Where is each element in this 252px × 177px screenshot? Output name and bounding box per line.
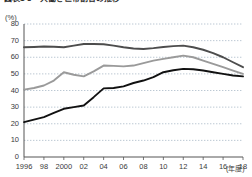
x-axis-tick-label: 1996 [13,162,35,171]
x-axis-tick-label: 10 [152,162,174,171]
y-axis-tick-label: 0 [3,152,19,161]
y-axis-tick-label: 40 [3,86,19,95]
y-axis-tick-label: 80 [3,19,19,28]
x-axis-tick-label: 98 [33,162,55,171]
y-axis-tick-label: 50 [3,69,19,78]
y-axis-tick-label: 10 [3,135,19,144]
x-axis-tick-label: 04 [93,162,115,171]
y-axis-tick-label: 20 [3,119,19,128]
x-axis-tick-label: 2000 [53,162,75,171]
y-axis-tick-label: 60 [3,52,19,61]
chart-figure: 図表1-3 共働き世帯割合の推移 (%) 01020304050607080 1… [0,0,252,177]
x-axis-unit-label: (年度) [226,163,245,173]
y-axis-tick-label: 30 [3,102,19,111]
x-axis-tick-label: 12 [172,162,194,171]
y-axis-tick-label: 70 [3,36,19,45]
x-axis-tick-label: 06 [113,162,135,171]
line-chart-plot [0,0,252,177]
x-axis-tick-label: 14 [192,162,214,171]
x-axis-tick-label: 02 [73,162,95,171]
x-axis-tick-label: 08 [132,162,154,171]
